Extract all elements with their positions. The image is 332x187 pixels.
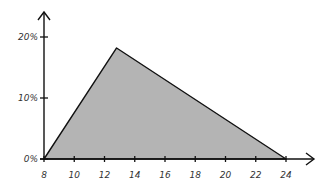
distribution-area: [44, 48, 286, 159]
x-tick-label: 18: [190, 170, 202, 180]
y-tick-label: 10%: [18, 93, 38, 103]
x-tick-label: 16: [159, 170, 171, 180]
y-tick-label: 0%: [24, 154, 38, 164]
plot-area: [44, 48, 286, 159]
x-tick-label: 10: [69, 170, 81, 180]
x-tick-label: 8: [41, 170, 47, 180]
x-tick-label: 12: [99, 170, 111, 180]
x-tick-label: 22: [250, 170, 262, 180]
x-tick-label: 20: [220, 170, 232, 180]
area-chart: 0%10%20% 81012141618202224: [0, 0, 332, 187]
y-tick-label: 20%: [18, 32, 38, 42]
x-tick-label: 24: [280, 170, 292, 180]
y-axis: 0%10%20%: [18, 12, 50, 164]
x-tick-label: 14: [129, 170, 141, 180]
